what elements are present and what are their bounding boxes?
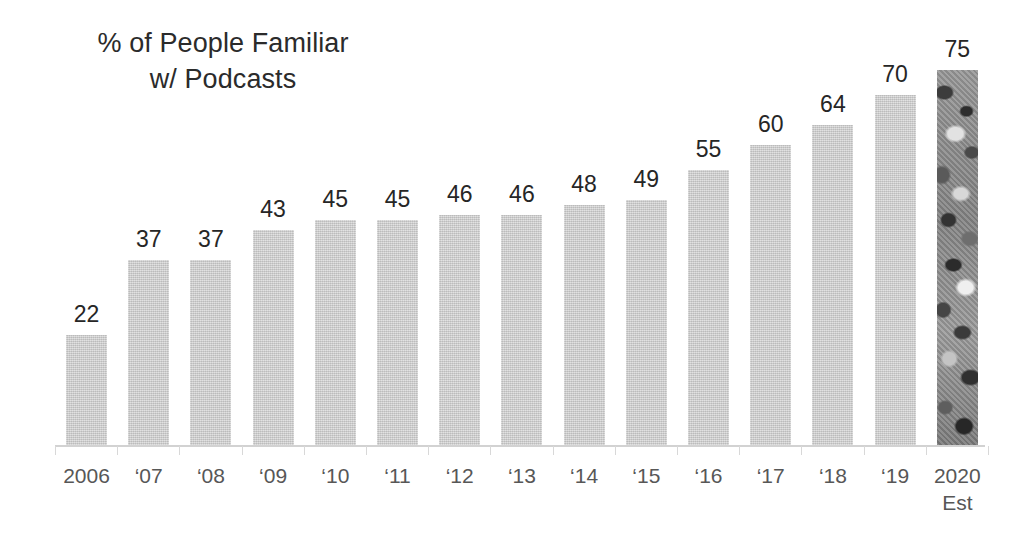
value-label: 45 — [368, 188, 428, 211]
axis-tick — [553, 446, 554, 455]
value-label: 70 — [865, 63, 925, 86]
value-label: 37 — [181, 228, 241, 251]
bar-17 — [750, 145, 791, 445]
axis-tick — [55, 446, 56, 455]
value-label: 46 — [430, 183, 490, 206]
axis-tick — [428, 446, 429, 455]
bar-19 — [875, 95, 916, 445]
axis-tick — [864, 446, 865, 455]
axis-tick — [926, 446, 927, 455]
bar-2020Est — [937, 70, 978, 445]
value-label: 46 — [492, 183, 552, 206]
bar-08 — [190, 260, 231, 445]
axis-tick — [615, 446, 616, 455]
axis-tick — [677, 446, 678, 455]
value-label: 22 — [57, 303, 117, 326]
axis-tick — [988, 446, 989, 455]
value-label: 55 — [679, 138, 739, 161]
plot-area: 223737434545464648495560647075 2006‘07‘0… — [0, 0, 1029, 538]
bar-09 — [253, 230, 294, 445]
value-label: 48 — [554, 173, 614, 196]
value-label: 64 — [803, 93, 863, 116]
bar-12 — [439, 215, 480, 445]
axis-tick — [490, 446, 491, 455]
bar-16 — [688, 170, 729, 445]
x-axis-line — [55, 445, 985, 447]
axis-tick — [304, 446, 305, 455]
bar-07 — [128, 260, 169, 445]
bar-14 — [564, 205, 605, 445]
value-label: 45 — [305, 188, 365, 211]
category-label: 2020 Est — [914, 463, 1000, 517]
bar-18 — [812, 125, 853, 445]
axis-tick — [739, 446, 740, 455]
value-label: 43 — [243, 198, 303, 221]
bar-15 — [626, 200, 667, 445]
value-label: 37 — [119, 228, 179, 251]
bar-2006 — [66, 335, 107, 445]
bar-10 — [315, 220, 356, 445]
value-label: 60 — [741, 113, 801, 136]
bar-13 — [501, 215, 542, 445]
value-label: 75 — [927, 38, 987, 61]
axis-tick — [179, 446, 180, 455]
bar-11 — [377, 220, 418, 445]
axis-tick — [366, 446, 367, 455]
bar-chart: % of People Familiar w/ Podcasts 2237374… — [0, 0, 1029, 538]
value-label: 49 — [616, 168, 676, 191]
axis-tick — [801, 446, 802, 455]
axis-tick — [242, 446, 243, 455]
axis-tick — [117, 446, 118, 455]
